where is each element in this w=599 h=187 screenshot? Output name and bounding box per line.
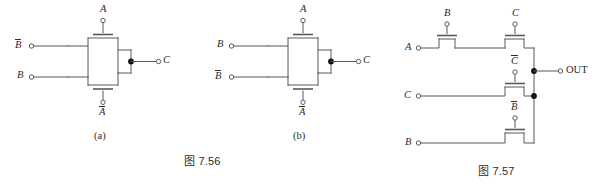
label-c-input-b: B [405, 137, 411, 148]
c-r1-t2-right [524, 39, 534, 48]
sublabel-a: (a) [94, 130, 106, 141]
c-r1-t1-left [421, 39, 439, 48]
subfigure-a-lines [29, 18, 160, 104]
label-a-gate-top: A [100, 4, 106, 15]
label-a-input-top: B [15, 39, 21, 51]
a-top-channel-left [68, 38, 88, 46]
a-output-terminal [156, 59, 160, 63]
b-output-terminal [356, 59, 360, 63]
sublabel-b: (b) [293, 130, 305, 141]
b-input-bot-terminal [229, 75, 233, 79]
c-gate-cbar-terminal [513, 70, 517, 74]
a-top-channel-right [118, 38, 131, 50]
c-input-c-terminal [416, 94, 420, 98]
b-top-channel-right [318, 38, 331, 50]
b-top-channel-left [268, 38, 288, 46]
c-r3-right [524, 133, 534, 143]
figure-canvas: A B B A C (a) A B B A C (b) B C C B [0, 0, 599, 187]
b-gate-top-terminal [301, 18, 305, 22]
caption-fig-7-57: 图 7.57 [478, 162, 515, 178]
label-c-input-c: C [404, 90, 411, 101]
label-b-input-bottom: B [215, 70, 221, 82]
c-input-b-terminal [416, 141, 420, 145]
a-gate-bot-terminal [101, 100, 105, 104]
a-input-bot-terminal [29, 75, 33, 79]
label-b-output: C [363, 55, 370, 66]
label-a-output: C [163, 55, 170, 66]
label-c-gate-cbar: C [511, 55, 518, 67]
c-r3-left [421, 133, 505, 143]
label-c-input-a: A [405, 42, 411, 53]
b-gate-bot-terminal [301, 100, 305, 104]
subfigure-b-lines [229, 18, 360, 104]
c-output-terminal [558, 69, 562, 73]
c-gate-c-terminal [513, 22, 517, 26]
label-b-input-top: B [217, 39, 223, 50]
c-gate-bbar-terminal [513, 116, 517, 120]
c-input-a-terminal [416, 46, 420, 50]
c-junction-dot-mid [531, 93, 537, 99]
label-c-gate-b: B [444, 8, 450, 19]
circuit-linework [0, 0, 599, 187]
c-r2-left [421, 87, 505, 96]
label-b-gate-top: A [300, 4, 306, 15]
label-b-gate-bottom: A [299, 106, 305, 118]
a-input-top-terminal [29, 44, 33, 48]
label-a-input-bottom: B [17, 70, 23, 81]
subfigure-c-lines [416, 22, 562, 145]
a-gate-top-terminal [101, 18, 105, 22]
b-input-top-terminal [229, 44, 233, 48]
label-c-gate-bbar: B [511, 101, 517, 113]
label-c-output: OUT [566, 65, 588, 76]
c-gate-b-terminal [445, 22, 449, 26]
caption-fig-7-56: 图 7.56 [184, 152, 221, 168]
label-a-gate-bottom: A [99, 106, 105, 118]
label-c-gate-c: C [512, 8, 519, 19]
